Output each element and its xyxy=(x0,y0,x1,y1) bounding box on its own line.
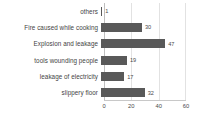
bar-row: others 1 xyxy=(0,4,205,18)
bar-zone: 17 xyxy=(101,70,205,84)
category-label: others xyxy=(0,8,101,15)
bar xyxy=(101,56,127,65)
category-label: tools wounding people xyxy=(0,57,101,64)
bar-zone: 19 xyxy=(101,53,205,67)
bar xyxy=(101,88,145,97)
x-tick-label: 20 xyxy=(128,102,134,110)
bar xyxy=(101,39,165,48)
category-label: slippery floor xyxy=(0,89,101,96)
bar-row: Explosion and leakage 47 xyxy=(0,37,205,51)
x-tick-label: 40 xyxy=(155,102,161,110)
bar-row: leakage of electricity 17 xyxy=(0,70,205,84)
x-tick-label: 60 xyxy=(183,102,189,110)
bar xyxy=(101,72,124,81)
bar-row: tools wounding people 19 xyxy=(0,53,205,67)
bar xyxy=(101,7,102,16)
x-tick-label: 0 xyxy=(102,102,105,110)
bar-zone: 47 xyxy=(101,37,205,51)
x-axis-tick-labels: 0 20 40 60 xyxy=(104,102,186,116)
bar xyxy=(101,23,142,32)
x-axis-line xyxy=(104,100,186,101)
category-label: leakage of electricity xyxy=(0,73,101,80)
bar-value-label: 32 xyxy=(148,90,154,96)
bar-value-label: 17 xyxy=(127,74,133,80)
bar-rows: others 1 Fire caused while cooking 30 Ex… xyxy=(0,4,205,100)
bar-value-label: 1 xyxy=(105,8,108,14)
bar-row: Fire caused while cooking 30 xyxy=(0,20,205,34)
bar-row: slippery floor 32 xyxy=(0,86,205,100)
category-label: Explosion and leakage xyxy=(0,40,101,47)
category-label: Fire caused while cooking xyxy=(0,24,101,31)
bar-value-label: 19 xyxy=(130,57,136,63)
bar-chart: others 1 Fire caused while cooking 30 Ex… xyxy=(0,0,205,120)
bar-zone: 1 xyxy=(101,4,205,18)
bar-value-label: 30 xyxy=(145,24,151,30)
bar-zone: 32 xyxy=(101,86,205,100)
bar-value-label: 47 xyxy=(168,41,174,47)
bar-zone: 30 xyxy=(101,20,205,34)
